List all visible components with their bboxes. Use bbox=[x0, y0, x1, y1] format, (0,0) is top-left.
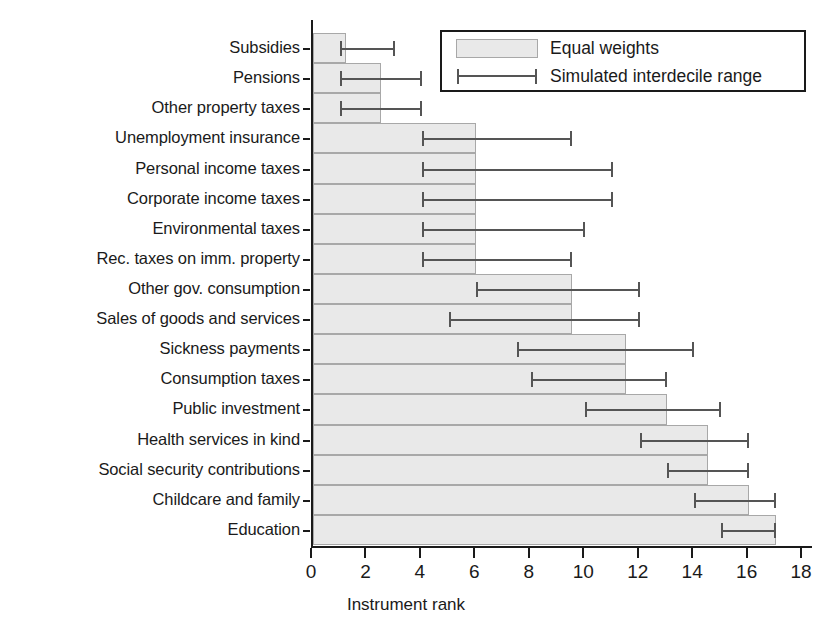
x-axis-tick-label: 8 bbox=[509, 562, 549, 582]
x-axis-tick-mark bbox=[800, 548, 802, 558]
x-axis-tick-label: 18 bbox=[781, 562, 821, 582]
x-axis-tick-mark bbox=[364, 548, 366, 558]
y-axis-tick-mark bbox=[303, 229, 310, 231]
x-axis-tick-mark bbox=[528, 548, 530, 558]
legend-swatch-error-bar bbox=[456, 64, 538, 88]
y-axis-tick-mark bbox=[303, 259, 310, 261]
x-axis-tick-label: 16 bbox=[727, 562, 767, 582]
y-axis-tick-mark bbox=[303, 78, 310, 80]
x-axis-tick-mark bbox=[473, 548, 475, 558]
y-axis-tick-mark bbox=[303, 440, 310, 442]
y-axis-tick-mark bbox=[303, 409, 310, 411]
y-axis-tick-mark bbox=[303, 138, 310, 140]
legend-label-interdecile-range: Simulated interdecile range bbox=[550, 67, 762, 86]
y-axis-tick-mark bbox=[303, 169, 310, 171]
x-axis-tick-label: 4 bbox=[400, 562, 440, 582]
y-axis-tick-mark bbox=[303, 108, 310, 110]
x-axis-tick-mark bbox=[419, 548, 421, 558]
x-axis-tick-mark bbox=[746, 548, 748, 558]
x-axis-tick-mark bbox=[637, 548, 639, 558]
x-axis-tick-mark bbox=[310, 548, 312, 558]
x-axis-tick-label: 0 bbox=[291, 562, 331, 582]
y-axis-tick-mark bbox=[303, 349, 310, 351]
legend-label-equal-weights: Equal weights bbox=[550, 39, 659, 58]
legend-swatch-box bbox=[456, 36, 538, 60]
instrument-rank-bar-chart: SubsidiesPensionsOther property taxesUne… bbox=[0, 0, 824, 636]
x-axis-tick-label: 14 bbox=[672, 562, 712, 582]
y-axis-tick-mark bbox=[303, 48, 310, 50]
y-axis-tick-mark bbox=[303, 530, 310, 532]
x-axis-tick-label: 2 bbox=[345, 562, 385, 582]
x-axis-tick-label: 10 bbox=[563, 562, 603, 582]
x-axis: 024681012141618 bbox=[0, 0, 824, 636]
y-axis-tick-mark bbox=[303, 470, 310, 472]
y-axis-tick-mark bbox=[303, 379, 310, 381]
x-axis-title: Instrument rank bbox=[0, 596, 812, 614]
x-axis-tick-mark bbox=[691, 548, 693, 558]
x-axis-tick-mark bbox=[582, 548, 584, 558]
legend-entry-interdecile-range: Simulated interdecile range bbox=[442, 62, 804, 90]
x-axis-tick-label: 12 bbox=[618, 562, 658, 582]
y-axis-tick-mark bbox=[303, 289, 310, 291]
y-axis-tick-mark bbox=[303, 500, 310, 502]
y-axis-tick-mark bbox=[303, 319, 310, 321]
y-axis-tick-mark bbox=[303, 199, 310, 201]
legend-entry-equal-weights: Equal weights bbox=[442, 34, 804, 62]
chart-legend: Equal weights Simulated interdecile rang… bbox=[440, 30, 806, 92]
x-axis-tick-label: 6 bbox=[454, 562, 494, 582]
